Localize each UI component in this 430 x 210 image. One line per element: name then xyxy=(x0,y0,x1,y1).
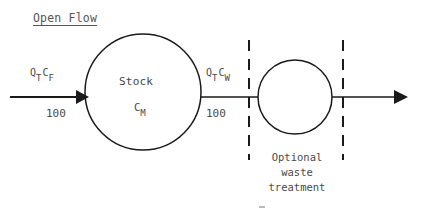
stock-c-subscript: M xyxy=(140,108,145,118)
open-flow-diagram: Open Flow QTCF 100 Stock CM QTCW 100 Opt… xyxy=(0,0,430,210)
inflow-q-subscript: T xyxy=(36,73,41,83)
treatment-caption-line-3: treatment xyxy=(252,180,342,195)
stock-circle xyxy=(85,34,201,150)
inflow-value: 100 xyxy=(46,107,66,120)
diagram-title: Open Flow xyxy=(33,12,97,24)
treatment-caption-line-2: waste xyxy=(252,165,342,180)
treatment-caption-line-1: Optional xyxy=(252,150,342,165)
inflow-symbol: QTCF xyxy=(30,67,55,78)
stock-symbol: CM xyxy=(134,101,147,113)
inflow-arrow xyxy=(10,90,89,104)
waste-flow-value: 100 xyxy=(206,107,226,120)
waste-c-subscript: W xyxy=(224,73,229,83)
treatment-circle xyxy=(258,60,332,134)
diagram-graphics xyxy=(0,0,430,210)
waste-q-subscript: T xyxy=(212,73,217,83)
treatment-caption: Optional waste treatment xyxy=(252,150,342,195)
stock-label: Stock xyxy=(119,76,153,88)
inflow-c-subscript: F xyxy=(48,73,53,83)
waste-flow-symbol: QTCW xyxy=(206,67,231,78)
